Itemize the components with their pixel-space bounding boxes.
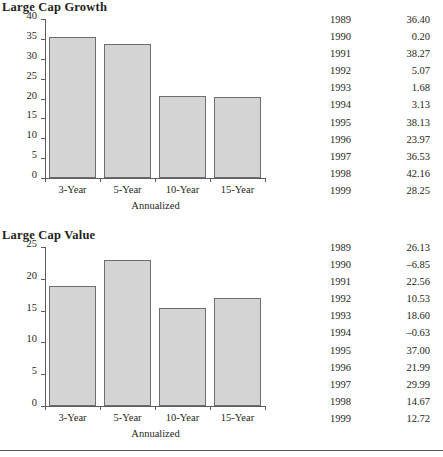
bar <box>214 97 261 178</box>
table-cell-return: 18.60 <box>406 310 430 321</box>
table-row: 1990–6.85 <box>330 259 430 276</box>
table-cell-year: 1989 <box>330 14 351 25</box>
bar-chart-large-cap-growth: Annualized 05101520253035403-Year5-Year1… <box>0 16 320 216</box>
y-tick-mark <box>41 138 45 139</box>
y-tick-label: 35 <box>27 31 38 42</box>
x-axis-category-label: 3-Year <box>45 184 100 195</box>
table-row: 199814.67 <box>330 396 430 413</box>
x-axis-category-label: 10-Year <box>155 184 210 195</box>
table-cell-year: 1990 <box>330 259 351 270</box>
y-tick-label: 10 <box>27 334 38 345</box>
bar <box>49 286 96 406</box>
y-tick-label: 25 <box>27 239 38 250</box>
table-cell-year: 1993 <box>330 82 351 93</box>
panel-large-cap-growth: Large Cap Growth Annualized 051015202530… <box>0 0 443 228</box>
bar <box>159 96 206 178</box>
y-tick-mark <box>41 247 45 248</box>
x-axis-title: Annualized <box>45 428 266 439</box>
y-tick-label: 20 <box>27 271 38 282</box>
y-tick-mark <box>41 279 45 280</box>
bar <box>104 260 151 406</box>
table-row: 199623.97 <box>330 134 430 151</box>
table-row: 199138.27 <box>330 48 430 65</box>
table-cell-return: 5.07 <box>412 65 430 76</box>
y-tick-label: 0 <box>32 170 37 181</box>
annual-returns-table: 198936.4019900.20199138.2719925.0719931.… <box>330 14 430 202</box>
table-cell-return: 23.97 <box>406 134 430 145</box>
y-tick-label: 40 <box>27 11 38 22</box>
y-tick-label: 30 <box>27 51 38 62</box>
table-cell-return: 1.68 <box>412 82 430 93</box>
table-cell-year: 1992 <box>330 65 351 76</box>
table-row: 1994–0.63 <box>330 327 430 344</box>
panel-large-cap-value: Large Cap Value Annualized 05101520253-Y… <box>0 228 443 457</box>
y-tick-mark <box>41 39 45 40</box>
table-cell-return: 12.72 <box>406 413 430 424</box>
table-row: 199621.99 <box>330 362 430 379</box>
y-tick-mark <box>41 311 45 312</box>
table-cell-year: 1997 <box>330 151 351 162</box>
panel-title: Large Cap Growth <box>2 0 107 15</box>
y-tick-mark <box>41 118 45 119</box>
table-cell-return: 37.00 <box>406 345 430 356</box>
annual-returns-table: 198926.131990–6.85199122.56199210.531993… <box>330 242 430 430</box>
table-cell-year: 1996 <box>330 134 351 145</box>
table-cell-year: 1998 <box>330 396 351 407</box>
x-axis-category-label: 5-Year <box>100 412 155 423</box>
y-tick-mark <box>41 158 45 159</box>
y-tick-mark <box>41 19 45 20</box>
x-axis-category-label: 15-Year <box>210 412 265 423</box>
table-cell-year: 1999 <box>330 413 351 424</box>
y-tick-label: 10 <box>27 130 38 141</box>
y-tick-label: 0 <box>32 398 37 409</box>
table-row: 199318.60 <box>330 310 430 327</box>
table-cell-year: 1992 <box>330 293 351 304</box>
y-tick-label: 15 <box>27 110 38 121</box>
y-tick-label: 25 <box>27 71 38 82</box>
y-tick-mark <box>41 79 45 80</box>
bar <box>214 298 261 406</box>
table-cell-return: –0.63 <box>406 327 430 338</box>
y-tick-mark <box>41 342 45 343</box>
x-axis-category-label: 3-Year <box>45 412 100 423</box>
table-cell-return: 36.40 <box>406 14 430 25</box>
bottom-divider <box>0 450 443 451</box>
table-cell-return: –6.85 <box>406 259 430 270</box>
bar <box>104 44 151 178</box>
table-row: 199736.53 <box>330 151 430 168</box>
table-row: 198926.13 <box>330 242 430 259</box>
table-cell-return: 29.99 <box>406 379 430 390</box>
table-row: 199928.25 <box>330 185 430 202</box>
x-axis-category-label: 10-Year <box>155 412 210 423</box>
x-tick-mark <box>45 406 46 410</box>
table-row: 19900.20 <box>330 31 430 48</box>
y-tick-label: 5 <box>32 366 37 377</box>
table-row: 199912.72 <box>330 413 430 430</box>
table-row: 19925.07 <box>330 65 430 82</box>
x-tick-mark <box>265 406 266 410</box>
x-tick-mark <box>155 406 156 410</box>
table-row: 199842.16 <box>330 168 430 185</box>
table-cell-return: 42.16 <box>406 168 430 179</box>
table-row: 199122.56 <box>330 276 430 293</box>
y-tick-mark <box>41 99 45 100</box>
x-tick-mark <box>45 178 46 182</box>
table-cell-return: 10.53 <box>406 293 430 304</box>
y-tick-label: 15 <box>27 303 38 314</box>
bar <box>49 37 96 178</box>
table-cell-year: 1991 <box>330 48 351 59</box>
table-cell-return: 22.56 <box>406 276 430 287</box>
table-cell-return: 14.67 <box>406 396 430 407</box>
bar-chart-large-cap-value: Annualized 05101520253-Year5-Year10-Year… <box>0 244 320 444</box>
x-axis-category-label: 5-Year <box>100 184 155 195</box>
table-cell-return: 26.13 <box>406 242 430 253</box>
table-cell-return: 38.13 <box>406 117 430 128</box>
table-cell-year: 1991 <box>330 276 351 287</box>
table-cell-return: 3.13 <box>412 99 430 110</box>
x-tick-mark <box>100 178 101 182</box>
table-row: 198936.40 <box>330 14 430 31</box>
x-tick-mark <box>155 178 156 182</box>
table-cell-year: 1989 <box>330 242 351 253</box>
table-row: 199729.99 <box>330 379 430 396</box>
x-tick-mark <box>265 178 266 182</box>
